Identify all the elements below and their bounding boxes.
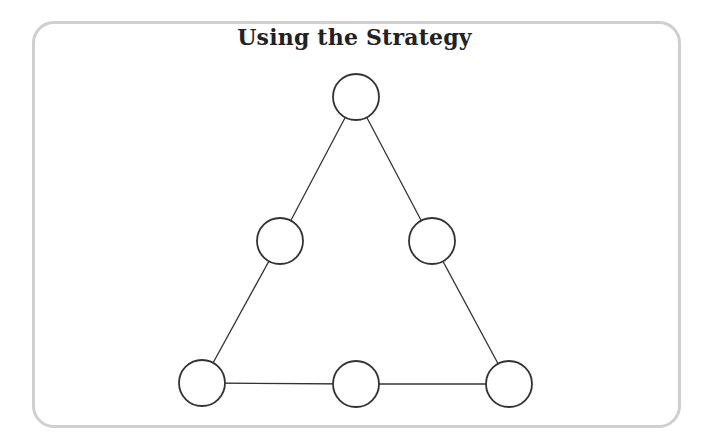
circle-node-right-middle[interactable] xyxy=(409,218,455,264)
diagram-edges xyxy=(202,97,509,384)
edge-right-middle-to-bottom-right xyxy=(432,241,509,384)
edge-top-to-right-middle xyxy=(356,97,432,241)
circle-node-top[interactable] xyxy=(333,74,379,120)
diagram-nodes xyxy=(179,74,532,407)
circle-node-bottom-right[interactable] xyxy=(486,361,532,407)
circle-node-bottom-middle[interactable] xyxy=(333,361,379,407)
edge-top-to-left-middle xyxy=(280,97,356,241)
circle-node-bottom-left[interactable] xyxy=(179,360,225,406)
edge-left-middle-to-bottom-left xyxy=(202,241,280,383)
circle-node-left-middle[interactable] xyxy=(257,218,303,264)
triangle-diagram xyxy=(0,0,709,439)
